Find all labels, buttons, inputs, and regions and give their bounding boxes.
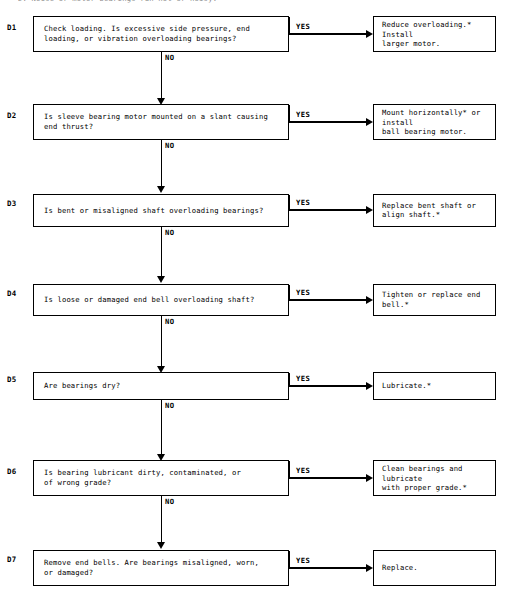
- no-branch-arrowhead-icon: [157, 542, 165, 549]
- yes-branch-arrow-line: [288, 121, 368, 123]
- action-box-text: Lubricate.*: [382, 381, 491, 391]
- action-box-text: Mount horizontally* or install ball bear…: [382, 108, 491, 137]
- yes-branch-arrow-line: [288, 567, 368, 569]
- yes-branch-stub: [288, 195, 290, 210]
- yes-branch-stub: [288, 105, 290, 122]
- yes-branch-stub: [288, 17, 290, 34]
- yes-branch-label: YES: [296, 467, 310, 474]
- no-branch-arrow-line: [161, 316, 163, 366]
- decision-box[interactable]: Is bearing lubricant dirty, contaminated…: [33, 460, 289, 496]
- yes-branch-arrowhead-icon: [366, 206, 373, 214]
- decision-box-text: Check loading. Is excessive side pressur…: [44, 24, 284, 43]
- no-branch-arrow-line: [161, 496, 163, 542]
- yes-branch-arrowhead-icon: [366, 30, 373, 38]
- action-box-text: Clean bearings and lubricate with proper…: [382, 464, 491, 493]
- no-branch-label: NO: [165, 229, 174, 236]
- no-branch-arrow-line: [161, 140, 163, 186]
- step-id-label: D1: [7, 24, 17, 31]
- decision-box[interactable]: Is loose or damaged end bell overloading…: [33, 284, 289, 316]
- action-box[interactable]: Lubricate.*: [373, 372, 496, 400]
- yes-branch-arrowhead-icon: [366, 564, 373, 572]
- action-box-text: Tighten or replace end bell.*: [382, 290, 491, 309]
- no-branch-label: NO: [165, 498, 174, 505]
- yes-branch-label: YES: [296, 199, 310, 206]
- decision-box[interactable]: Check loading. Is excessive side pressur…: [33, 16, 289, 52]
- no-branch-label: NO: [165, 402, 174, 409]
- yes-branch-arrow-line: [288, 33, 368, 35]
- no-branch-label: NO: [165, 54, 174, 61]
- yes-branch-arrow-line: [288, 209, 368, 211]
- step-id-label: D3: [7, 200, 17, 207]
- yes-branch-stub: [288, 551, 290, 568]
- action-box[interactable]: Reduce overloading.* Install larger moto…: [373, 16, 496, 52]
- step-id-label: D7: [7, 556, 17, 563]
- action-box[interactable]: Clean bearings and lubricate with proper…: [373, 460, 496, 496]
- action-box-text: Replace bent shaft or align shaft.*: [382, 201, 491, 220]
- yes-branch-stub: [288, 285, 290, 300]
- step-id-label: D4: [7, 290, 17, 297]
- yes-branch-arrow-line: [288, 477, 368, 479]
- yes-branch-label: YES: [296, 375, 310, 382]
- step-id-label: D5: [7, 376, 17, 383]
- yes-branch-label: YES: [296, 289, 310, 296]
- decision-box-text: Is bent or misaligned shaft overloading …: [44, 206, 284, 216]
- no-branch-arrow-line: [161, 227, 163, 276]
- action-box[interactable]: Replace.: [373, 550, 496, 586]
- step-id-label: D6: [7, 468, 17, 475]
- yes-branch-label: YES: [296, 111, 310, 118]
- page-header-caption: D. Noise or motor bearings run hot or no…: [18, 0, 217, 3]
- action-box-text: Replace.: [382, 563, 491, 573]
- action-box[interactable]: Replace bent shaft or align shaft.*: [373, 194, 496, 227]
- yes-branch-stub: [288, 461, 290, 478]
- decision-box-text: Is bearing lubricant dirty, contaminated…: [44, 468, 284, 487]
- action-box-text: Reduce overloading.* Install larger moto…: [382, 20, 491, 49]
- yes-branch-arrow-line: [288, 299, 368, 301]
- no-branch-arrowhead-icon: [157, 186, 165, 193]
- decision-box-text: Remove end bells. Are bearings misaligne…: [44, 558, 284, 577]
- yes-branch-label: YES: [296, 23, 310, 30]
- action-box[interactable]: Tighten or replace end bell.*: [373, 284, 496, 316]
- decision-box[interactable]: Are bearings dry?: [33, 372, 289, 400]
- no-branch-arrowhead-icon: [157, 276, 165, 283]
- step-id-label: D2: [7, 112, 17, 119]
- yes-branch-arrow-line: [288, 385, 368, 387]
- no-branch-label: NO: [165, 142, 174, 149]
- yes-branch-arrowhead-icon: [366, 118, 373, 126]
- action-box[interactable]: Mount horizontally* or install ball bear…: [373, 104, 496, 140]
- no-branch-label: NO: [165, 318, 174, 325]
- yes-branch-arrowhead-icon: [366, 474, 373, 482]
- decision-box[interactable]: Is bent or misaligned shaft overloading …: [33, 194, 289, 227]
- no-branch-arrow-line: [161, 400, 163, 454]
- no-branch-arrow-line: [161, 52, 163, 98]
- decision-box[interactable]: Is sleeve bearing motor mounted on a sla…: [33, 104, 289, 140]
- decision-box[interactable]: Remove end bells. Are bearings misaligne…: [33, 550, 289, 586]
- decision-box-text: Are bearings dry?: [44, 381, 284, 391]
- yes-branch-label: YES: [296, 557, 310, 564]
- decision-box-text: Is sleeve bearing motor mounted on a sla…: [44, 112, 284, 131]
- yes-branch-arrowhead-icon: [366, 382, 373, 390]
- decision-box-text: Is loose or damaged end bell overloading…: [44, 295, 284, 305]
- yes-branch-arrowhead-icon: [366, 296, 373, 304]
